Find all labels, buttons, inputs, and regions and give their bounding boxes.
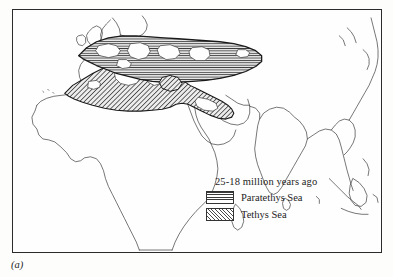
tethys-swatch-icon: [206, 208, 234, 221]
coastline-canary-islands: [43, 89, 54, 93]
coastline-indochina: [331, 119, 355, 155]
strait-shape: [159, 75, 182, 91]
legend-label-tethys: Tethys Sea: [241, 209, 287, 220]
tethys-island-d: [88, 80, 101, 89]
paratethys-island-b: [127, 43, 150, 60]
coastline-ireland: [77, 35, 86, 46]
figure-caption: (a): [11, 259, 23, 270]
region-strait-connection: [159, 75, 182, 91]
paratethys-island-a: [96, 44, 121, 58]
legend-item-paratethys: Paratethys Sea: [206, 191, 356, 204]
figure-root: 25-18 million years ago Paratethys Sea T…: [0, 0, 393, 277]
legend-label-paratethys: Paratethys Sea: [241, 192, 303, 203]
coastline-small-island-a: [373, 194, 378, 202]
coastline-baltic: [120, 16, 147, 38]
coastline-island-arc-north: [347, 28, 356, 43]
legend-title: 25-18 million years ago: [215, 176, 356, 187]
paratethys-swatch-icon: [206, 191, 234, 204]
coastline-east-asia: [349, 18, 378, 120]
coastline-africa: [32, 104, 218, 250]
coastline-korea: [363, 50, 369, 70]
coastline-persian-gulf: [226, 95, 250, 105]
coastline-philippines: [363, 159, 369, 176]
coastline-iran-pakistan: [250, 106, 260, 119]
map-legend: 25-18 million years ago Paratethys Sea T…: [206, 176, 356, 225]
coastline-island-arc-mid: [339, 36, 345, 46]
legend-item-tethys: Tethys Sea: [206, 208, 356, 221]
